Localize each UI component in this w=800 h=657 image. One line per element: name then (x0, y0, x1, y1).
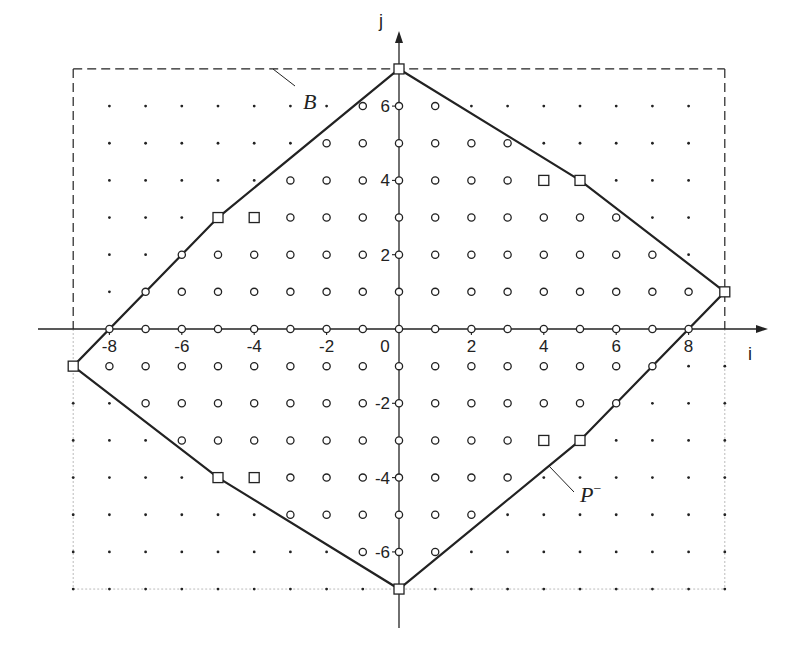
lattice-circle (649, 363, 656, 370)
lattice-circle (214, 400, 221, 407)
lattice-circle (395, 325, 402, 332)
lattice-circle (540, 214, 547, 221)
b-label: B (303, 89, 316, 114)
lattice-dot (180, 179, 183, 182)
lattice-dot (470, 105, 473, 108)
vertex-square-marker (68, 361, 78, 371)
lattice-dot (72, 588, 75, 591)
lattice-circle (287, 474, 294, 481)
j-axis-arrow-icon (395, 31, 403, 43)
lattice-dot (253, 105, 256, 108)
lattice-circle (359, 251, 366, 258)
lattice-dot (144, 253, 147, 256)
interior-square-marker (539, 175, 549, 185)
lattice-dot (289, 588, 292, 591)
lattice-circle (649, 325, 656, 332)
lattice-circle (287, 214, 294, 221)
lattice-dot (687, 439, 690, 442)
lattice-dot (289, 105, 292, 108)
lattice-circle (142, 400, 149, 407)
lattice-dot (144, 476, 147, 479)
lattice-circle (504, 177, 511, 184)
lattice-dot (253, 142, 256, 145)
lattice-dot (144, 439, 147, 442)
lattice-circle (685, 288, 692, 295)
lattice-dot (723, 588, 726, 591)
lattice-circle (468, 251, 475, 258)
lattice-dot (615, 439, 618, 442)
lattice-circle (106, 363, 113, 370)
lattice-dot (615, 551, 618, 554)
j-tick-label: 4 (381, 171, 390, 190)
i-tick-label: -8 (102, 337, 117, 356)
lattice-dot (615, 105, 618, 108)
lattice-circle (432, 214, 439, 221)
lattice-circle (178, 288, 185, 295)
lattice-circle (323, 511, 330, 518)
lattice-dot (108, 290, 111, 293)
lattice-circle (287, 325, 294, 332)
i-tick-label: 6 (611, 337, 620, 356)
lattice-dot (72, 402, 75, 405)
lattice-circle (359, 474, 366, 481)
lattice-dot (542, 142, 545, 145)
lattice-circle (395, 288, 402, 295)
lattice-dot (723, 513, 726, 516)
lattice-dot (687, 253, 690, 256)
lattice-dot (217, 588, 220, 591)
lattice-dot (180, 105, 183, 108)
lattice-circle (359, 437, 366, 444)
lattice-circle (178, 437, 185, 444)
lattice-dot (180, 476, 183, 479)
lattice-circle (395, 177, 402, 184)
lattice-dot (651, 588, 654, 591)
lattice-dot (615, 513, 618, 516)
lattice-circle (432, 474, 439, 481)
lattice-dot (180, 551, 183, 554)
lattice-circle (142, 288, 149, 295)
lattice-dot (72, 513, 75, 516)
lattice-dot (325, 551, 328, 554)
lattice-circle (540, 288, 547, 295)
lattice-dot (253, 179, 256, 182)
lattice-circle (504, 214, 511, 221)
lattice-dot (615, 588, 618, 591)
lattice-circle (395, 140, 402, 147)
lattice-circle (468, 437, 475, 444)
lattice-dot (542, 476, 545, 479)
lattice-circle (178, 400, 185, 407)
lattice-circle (395, 103, 402, 110)
lattice-dot (651, 439, 654, 442)
lattice-circle (142, 325, 149, 332)
lattice-dot (651, 551, 654, 554)
lattice-dot (72, 551, 75, 554)
vertex-square-marker (575, 175, 585, 185)
lattice-circle (287, 177, 294, 184)
lattice-dot (651, 105, 654, 108)
lattice-dot (687, 476, 690, 479)
lattice-circle (468, 511, 475, 518)
lattice-circle (287, 511, 294, 518)
lattice-circle (649, 288, 656, 295)
lattice-circle (432, 103, 439, 110)
lattice-circle (287, 363, 294, 370)
lattice-dot (542, 105, 545, 108)
lattice-dot (108, 142, 111, 145)
lattice-dot (108, 105, 111, 108)
lattice-dot (651, 513, 654, 516)
lattice-circle (468, 177, 475, 184)
lattice-circle (178, 325, 185, 332)
i-tick-label: 4 (539, 337, 548, 356)
lattice-dot (687, 402, 690, 405)
lattice-dot (723, 439, 726, 442)
j-tick-label: -2 (375, 394, 390, 413)
lattice-circle (504, 437, 511, 444)
lattice-dot (144, 216, 147, 219)
lattice-circle (251, 325, 258, 332)
lattice-dot (72, 476, 75, 479)
lattice-circle (504, 363, 511, 370)
vertex-square-marker (575, 435, 585, 445)
lattice-dot (108, 551, 111, 554)
lattice-circle (359, 140, 366, 147)
lattice-dot (470, 551, 473, 554)
